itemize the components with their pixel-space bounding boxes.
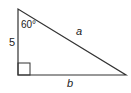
vertical-side-label: 5 [9, 36, 15, 48]
hypotenuse-label: a [76, 25, 82, 37]
angle-label: 60° [21, 19, 36, 30]
right-angle-marker [18, 63, 30, 75]
right-triangle-diagram: 60° 5 a b [0, 0, 131, 93]
base-label: b [67, 77, 73, 89]
